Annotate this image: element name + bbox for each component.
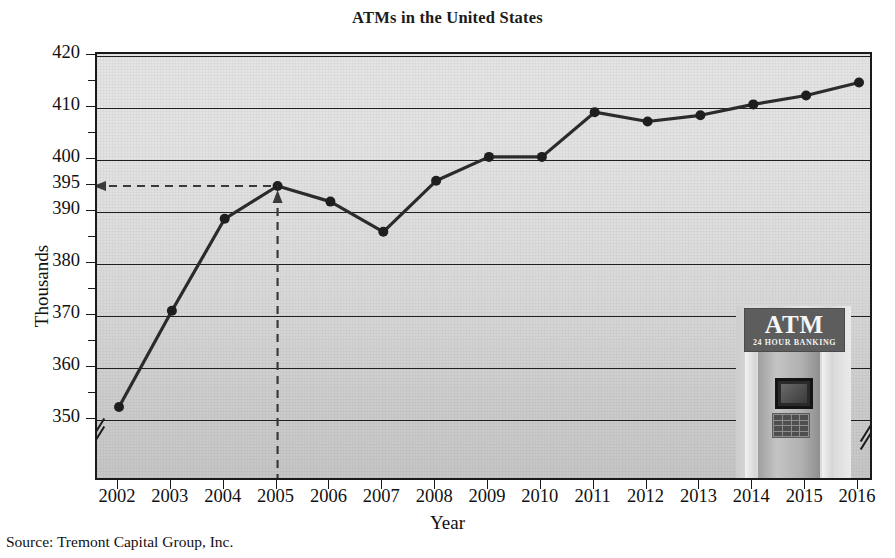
x-tick-label-2014: 2014: [724, 486, 778, 507]
x-tick-label-2003: 2003: [143, 486, 197, 507]
y-tick-420: [86, 54, 95, 55]
x-tick-2009: [487, 480, 488, 489]
x-tick-2006: [328, 480, 329, 489]
y-tick-360: [86, 366, 95, 367]
data-point-2004: [220, 214, 230, 224]
x-tick-2010: [540, 480, 541, 489]
data-point-2016: [854, 78, 864, 88]
x-tick-label-2006: 2006: [301, 486, 355, 507]
y-tick-label-370: 370: [20, 302, 80, 323]
x-tick-2011: [593, 480, 594, 489]
data-point-2009: [484, 152, 494, 162]
x-tick-2016: [857, 480, 858, 489]
annotation-left-arrowhead: [97, 181, 106, 191]
y-tick-minor-405: [88, 132, 95, 133]
y-tick-350: [86, 418, 95, 419]
x-tick-label-2012: 2012: [619, 486, 673, 507]
data-point-2012: [643, 117, 653, 127]
y-tick-label-390: 390: [20, 198, 80, 219]
x-tick-label-2009: 2009: [460, 486, 514, 507]
y-tick-label-400: 400: [20, 146, 80, 167]
x-tick-label-2015: 2015: [777, 486, 831, 507]
data-point-2014: [748, 99, 758, 109]
y-tick-370: [86, 314, 95, 315]
x-tick-label-2013: 2013: [671, 486, 725, 507]
x-tick-label-2008: 2008: [407, 486, 461, 507]
x-tick-2005: [276, 480, 277, 489]
chart-figure: ATMs in the United States Thousands 4204…: [0, 0, 895, 558]
x-tick-2014: [751, 480, 752, 489]
y-tick-minor-415: [88, 80, 95, 81]
x-tick-label-2007: 2007: [354, 486, 408, 507]
data-point-2005: [273, 181, 283, 191]
x-tick-2015: [804, 480, 805, 489]
x-tick-2008: [434, 480, 435, 489]
y-tick-395: [86, 184, 95, 185]
series-line: [119, 83, 859, 408]
y-tick-label-380: 380: [20, 250, 80, 271]
y-tick-410: [86, 106, 95, 107]
x-axis-break-mark: [856, 432, 876, 442]
data-series-layer: [97, 54, 872, 480]
plot-area: ATM 24 HOUR BANKING: [95, 52, 872, 480]
y-tick-390: [86, 210, 95, 211]
x-tick-label-2005: 2005: [249, 486, 303, 507]
y-tick-minor-365: [88, 340, 95, 341]
y-tick-label-350: 350: [20, 406, 80, 427]
x-tick-label-2002: 2002: [90, 486, 144, 507]
y-tick-label-395: 395: [20, 172, 80, 193]
data-point-2002: [114, 402, 124, 412]
data-point-2006: [325, 197, 335, 207]
y-tick-label-360: 360: [20, 354, 80, 375]
source-note: Source: Tremont Capital Group, Inc.: [6, 533, 233, 551]
x-tick-2004: [223, 480, 224, 489]
data-point-2007: [378, 227, 388, 237]
y-tick-minor-355: [88, 392, 95, 393]
data-point-2015: [801, 91, 811, 101]
data-point-2010: [537, 152, 547, 162]
x-axis-title: Year: [0, 512, 895, 534]
y-tick-minor-385: [88, 236, 95, 237]
y-tick-label-410: 410: [20, 94, 80, 115]
data-point-2013: [695, 110, 705, 120]
x-tick-label-2016: 2016: [830, 486, 884, 507]
x-tick-2002: [117, 480, 118, 489]
y-axis-break-mark: [95, 426, 109, 436]
data-point-2003: [167, 306, 177, 316]
y-axis-title: Thousands: [31, 206, 53, 366]
y-tick-400: [86, 158, 95, 159]
x-tick-label-2011: 2011: [566, 486, 620, 507]
data-point-2008: [431, 176, 441, 186]
y-tick-label-420: 420: [20, 42, 80, 63]
page-title: ATMs in the United States: [0, 8, 895, 28]
x-tick-2003: [170, 480, 171, 489]
annotation-dashed-guides: [97, 181, 283, 480]
y-tick-380: [86, 262, 95, 263]
data-point-2011: [590, 107, 600, 117]
x-tick-2007: [381, 480, 382, 489]
y-tick-minor-375: [88, 288, 95, 289]
x-tick-label-2004: 2004: [196, 486, 250, 507]
x-tick-label-2010: 2010: [513, 486, 567, 507]
x-tick-2013: [698, 480, 699, 489]
series-markers: [114, 78, 864, 413]
x-tick-2012: [646, 480, 647, 489]
annotation-up-arrowhead: [273, 190, 283, 203]
